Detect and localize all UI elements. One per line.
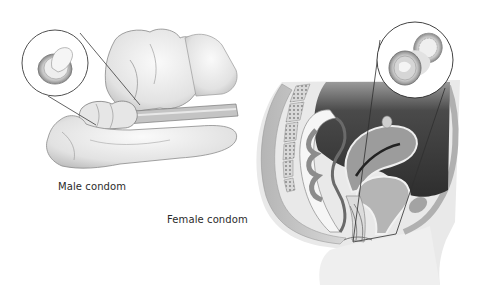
illustration: Male condom Female condom [0,0,478,285]
male-condom-caption: Male condom [58,181,126,192]
female-condom-illustration [256,22,460,285]
illustration-art [0,0,478,285]
male-condom-illustration [22,29,238,168]
female-condom-caption: Female condom [167,214,248,225]
